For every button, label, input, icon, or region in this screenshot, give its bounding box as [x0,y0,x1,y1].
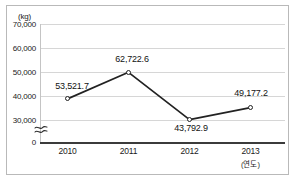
data-label-2013: 49,177.2 [234,88,267,98]
y-tick-label-40000: 40,000 [13,92,36,101]
data-label-2011: 62,722.6 [115,54,148,64]
y-tick-label-0: 0 [32,138,36,147]
y-tick-label-70000: 70,000 [13,20,36,29]
chart-figure: (kg) 70,000 60,000 50,000 40,000 30,000 … [0,0,296,181]
y-tick-label-30000: 30,000 [13,116,36,125]
y-tick-label-60000: 60,000 [13,44,36,53]
x-tick-label-2012: 2012 [180,146,198,156]
data-label-2012: 43,792.9 [174,123,207,133]
data-point-2011[interactable] [126,70,131,75]
x-tick-label-2010: 2010 [58,146,76,156]
plot-area: 70,000 60,000 50,000 40,000 30,000 0 53,… [40,24,285,143]
x-tick-label-2011: 2011 [120,146,137,156]
data-label-2010: 53,521.7 [55,81,88,91]
x-axis-unit-label: (연도) [241,158,260,169]
y-tick-label-50000: 50,000 [13,68,36,77]
x-tick-label-2013: 2013 [241,146,259,156]
